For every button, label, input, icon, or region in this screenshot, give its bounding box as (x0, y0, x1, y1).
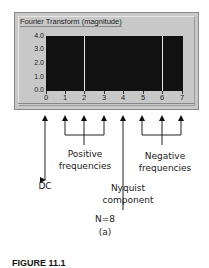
subfigure-label: (a) (90, 226, 120, 238)
dc-label: DC (30, 180, 60, 192)
positive-label-line1: Positive (55, 148, 115, 160)
nyquist-label-line2: component (100, 194, 156, 206)
n-label: N=8 (90, 213, 120, 225)
positive-label-line2: frequencies (55, 160, 115, 172)
nyquist-label: Nyquist component (100, 182, 156, 206)
negative-frequencies-label: Negative frequencies (133, 150, 197, 174)
negative-label-line1: Negative (133, 150, 197, 162)
positive-frequencies-label: Positive frequencies (55, 148, 115, 172)
nyquist-label-line1: Nyquist (100, 182, 156, 194)
negative-label-line2: frequencies (133, 162, 197, 174)
figure-caption: FIGURE 11.1 (12, 258, 66, 268)
